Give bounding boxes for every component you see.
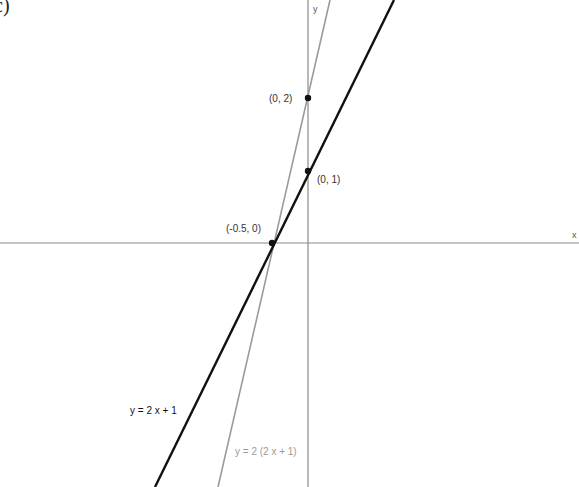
point-0-1 — [305, 168, 311, 174]
point-label-0-2: (0, 2) — [269, 94, 292, 104]
x-axis-label: x — [572, 230, 577, 240]
point-0-2 — [305, 95, 311, 101]
point-label-0-1: (0, 1) — [317, 175, 340, 185]
graph-plot — [0, 0, 579, 487]
point-label-neg05-0: (-0.5, 0) — [226, 224, 261, 234]
equation-label-dark: y = 2 x + 1 — [130, 406, 177, 416]
y-axis-label: y — [313, 4, 318, 14]
equation-label-gray: y = 2 (2 x + 1) — [235, 447, 297, 457]
point-neg05-0 — [269, 240, 275, 246]
